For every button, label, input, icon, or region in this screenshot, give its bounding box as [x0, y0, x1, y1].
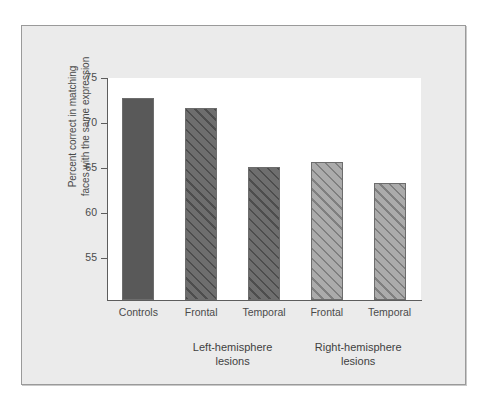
group-left-line-2: lesions	[163, 355, 303, 369]
y-axis-title: Percent correct in matching faces with t…	[67, 27, 92, 227]
group-right-line-1: Right-hemisphere	[288, 341, 428, 355]
y-axis-tick-label: 55	[69, 252, 97, 262]
y-axis-tick	[101, 213, 107, 214]
y-axis-title-line-1: Percent correct in matching	[67, 27, 80, 227]
group-label-right-hemisphere: Right-hemisphere lesions	[288, 341, 428, 368]
figure-panel: 5560657075 Percent correct in matching f…	[21, 25, 466, 385]
group-left-line-1: Left-hemisphere	[163, 341, 303, 355]
x-axis-label-4: Temporal	[345, 306, 435, 318]
y-axis-tick	[101, 123, 107, 124]
y-axis-tick	[101, 78, 107, 79]
group-label-left-hemisphere: Left-hemisphere lesions	[163, 341, 303, 368]
group-right-line-2: lesions	[288, 355, 428, 369]
bar-frontal-1	[185, 108, 217, 300]
bar-temporal-2	[248, 167, 280, 300]
y-axis-tick	[101, 168, 107, 169]
bar-temporal-4	[374, 183, 406, 300]
y-axis-line	[107, 78, 108, 301]
bar-controls-0	[122, 98, 154, 300]
bar-frontal-3	[311, 162, 343, 300]
y-axis-title-line-2: faces with the same expression	[79, 27, 92, 227]
y-axis-tick-label-wrap: 55	[67, 252, 97, 264]
x-axis-line	[107, 300, 422, 301]
y-axis-tick	[101, 258, 107, 259]
